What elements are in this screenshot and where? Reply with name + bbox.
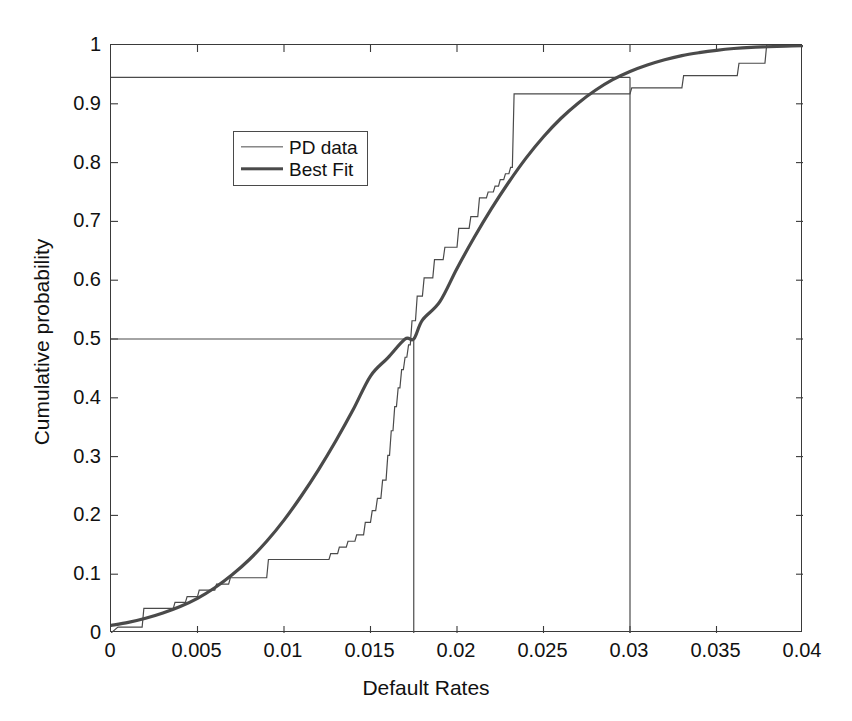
- y-axis-tick-label: 0.8: [73, 152, 101, 172]
- series-best-fit: [111, 46, 803, 626]
- x-axis-tick-label: 0.025: [517, 640, 567, 660]
- y-axis-tick-label: 0.6: [73, 269, 101, 289]
- y-axis-tick-label: 0.4: [73, 387, 101, 407]
- x-axis-tick-label: 0: [104, 640, 115, 660]
- legend-label-pd-data: PD data: [289, 138, 358, 157]
- x-axis-tick-label: 0.03: [610, 640, 649, 660]
- legend-line-best-fit: [241, 163, 283, 175]
- x-axis-tick-label: 0.035: [690, 640, 740, 660]
- plot-area: PD data Best Fit: [110, 44, 802, 632]
- x-axis-tick-label: 0.01: [264, 640, 303, 660]
- cdf-figure: 00.10.20.30.40.50.60.70.80.91 PD data Be…: [0, 0, 852, 721]
- y-axis-title: Cumulative probability: [30, 107, 54, 577]
- y-axis-tick-label: 0.7: [73, 210, 101, 230]
- y-axis-tick-label: 0.1: [73, 563, 101, 583]
- chart-legend: PD data Best Fit: [233, 131, 368, 186]
- y-axis-tick-label: 0.3: [73, 446, 101, 466]
- plot-canvas: [111, 45, 803, 633]
- legend-label-best-fit: Best Fit: [289, 160, 353, 179]
- x-axis-title: Default Rates: [0, 676, 852, 700]
- x-axis-tick-label: 0.04: [783, 640, 822, 660]
- y-axis-tick-label: 0.2: [73, 504, 101, 524]
- x-axis-tick-label: 0.015: [344, 640, 394, 660]
- reference-lines: [111, 77, 630, 633]
- y-axis-tick-label: 0.5: [73, 328, 101, 348]
- legend-item-best-fit: Best Fit: [241, 158, 358, 180]
- x-axis-tick-labels: 00.0050.010.0150.020.0250.030.0350.04: [0, 640, 852, 670]
- x-axis-tick-label: 0.005: [171, 640, 221, 660]
- y-axis-tick-label: 1: [90, 34, 101, 54]
- legend-item-pd-data: PD data: [241, 136, 358, 158]
- legend-line-pd-data: [241, 141, 283, 153]
- y-axis-tick-label: 0: [90, 622, 101, 642]
- y-axis-tick-label: 0.9: [73, 93, 101, 113]
- x-axis-tick-label: 0.02: [437, 640, 476, 660]
